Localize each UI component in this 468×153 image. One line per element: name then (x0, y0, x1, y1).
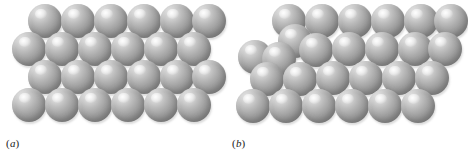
atom-sphere (368, 89, 402, 123)
lattice-b (226, 0, 452, 126)
lattice-a (0, 0, 226, 126)
atom-sphere (269, 89, 303, 123)
atom-sphere (335, 89, 369, 123)
atom-sphere (45, 88, 79, 122)
panel-a: (a) (0, 0, 226, 153)
atom-sphere (177, 88, 211, 122)
panel-a-caption: (a) (6, 137, 19, 149)
atom-sphere (78, 88, 112, 122)
panel-b-caption: (b) (232, 137, 245, 149)
atom-sphere (144, 88, 178, 122)
panel-b: (b) (226, 0, 452, 153)
atom-sphere (302, 89, 336, 123)
atom-sphere (12, 88, 46, 122)
atom-sphere (236, 89, 270, 123)
caption-paren-close: ) (242, 137, 246, 149)
atom-sphere (111, 88, 145, 122)
atom-sphere (401, 89, 435, 123)
caption-paren-close: ) (16, 137, 20, 149)
